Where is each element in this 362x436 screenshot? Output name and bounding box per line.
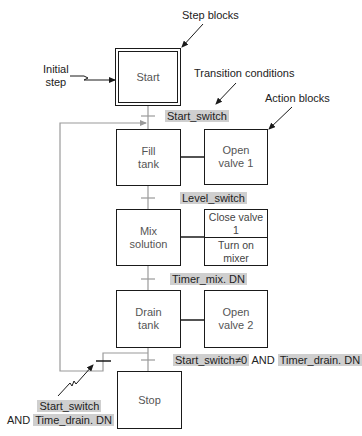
action-open-valve-1[interactable]: Open valve 1	[204, 129, 268, 185]
action-open-valve-2-label: Open valve 2	[219, 306, 254, 332]
loop-condition-start-switch: Start_switch	[37, 400, 101, 412]
condition-timer-mix-dn: Timer_mix. DN	[170, 273, 247, 285]
action-turn-on-mixer[interactable]: Turn on mixer	[205, 238, 267, 265]
step-fill-tank-label: Fill tank	[138, 145, 159, 171]
action-close-valve-1[interactable]: Close valve 1	[205, 210, 267, 238]
arrow-step-blocks	[182, 24, 203, 47]
arrow-transition-conditions	[216, 83, 236, 104]
loop-condition-time-drain-dn: Time_drain. DN	[33, 414, 114, 426]
arrow-action-blocks	[269, 107, 292, 129]
action-open-valve-2[interactable]: Open valve 2	[204, 290, 268, 348]
initial-step-label: Initial step	[43, 63, 69, 89]
step-mix-solution-label: Mix solution	[130, 225, 168, 251]
condition-start-switch-nonzero: Start_switch≠0	[173, 354, 249, 366]
action-blocks-label: Action blocks	[265, 92, 330, 105]
condition-timer-drain-dn: Timer_drain. DN	[278, 354, 362, 366]
step-stop[interactable]: Stop	[117, 371, 182, 429]
transition-condition-2: Level_switch	[180, 191, 247, 205]
step-blocks-label: Step blocks	[182, 9, 239, 22]
transition-condition-4: Start_switch≠0 AND Timer_drain. DN	[173, 353, 362, 367]
arrow-initial-step	[70, 76, 115, 80]
arrow-loop-condition	[58, 365, 93, 396]
step-drain-tank[interactable]: Drain tank	[116, 290, 181, 348]
step-start-label: Start	[136, 71, 159, 84]
action-mix-block[interactable]: Close valve 1 Turn on mixer	[204, 209, 268, 266]
step-mix-solution[interactable]: Mix solution	[116, 209, 181, 266]
condition-start-switch: Start_switch	[165, 110, 229, 122]
transition-condition-3: Timer_mix. DN	[170, 272, 247, 286]
step-stop-label: Stop	[138, 394, 161, 407]
loop-condition: Start_switch AND Time_drain. DN	[7, 399, 114, 427]
step-drain-tank-label: Drain tank	[135, 306, 161, 332]
transition-conditions-label: Transition conditions	[194, 67, 294, 80]
condition-level-switch: Level_switch	[180, 192, 247, 204]
loop-condition-and: AND	[7, 414, 33, 426]
step-start[interactable]: Start	[115, 48, 181, 106]
step-fill-tank[interactable]: Fill tank	[116, 129, 181, 186]
transition-condition-1: Start_switch	[165, 109, 229, 123]
action-open-valve-1-label: Open valve 1	[219, 144, 254, 170]
condition-and-1: AND	[249, 354, 278, 366]
